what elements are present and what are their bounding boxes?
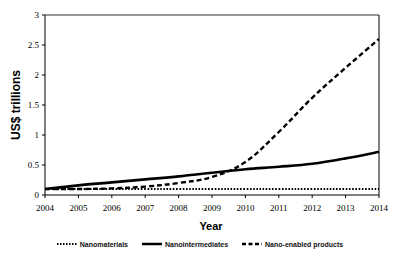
x-tick-label: 2012: [303, 203, 321, 213]
series-nano-enabled-products-line: [45, 39, 379, 189]
axes: 00.511.522.53200420052006200720082009201…: [28, 10, 389, 213]
x-tick-label: 2008: [170, 203, 189, 213]
legend-item-nanointermediates: Nanointermediates: [142, 241, 228, 248]
x-tick-label: 2011: [270, 203, 288, 213]
x-tick-label: 2005: [69, 203, 88, 213]
y-tick-label: 2.5: [28, 40, 40, 50]
y-tick-label: 0.5: [28, 160, 40, 170]
x-tick-label: 2010: [236, 203, 255, 213]
x-tick-label: 2009: [203, 203, 222, 213]
y-tick-label: 1.5: [28, 100, 40, 110]
dotted-line-icon: [57, 241, 77, 247]
y-tick-label: 0: [35, 190, 40, 200]
x-tick-label: 2007: [136, 203, 155, 213]
y-tick-label: 1: [35, 130, 40, 140]
y-tick-label: 2: [35, 70, 40, 80]
y-tick-label: 3: [35, 10, 40, 20]
legend-item-nano-enabled-products: Nano-enabled products: [242, 241, 343, 248]
legend-label: Nanomaterials: [80, 241, 128, 248]
legend: Nanomaterials Nanointermediates Nano-ena…: [0, 236, 400, 252]
legend-label: Nanointermediates: [165, 241, 228, 248]
legend-item-nanomaterials: Nanomaterials: [57, 241, 128, 248]
y-axis-title: US$ trillions: [9, 70, 23, 140]
legend-label: Nano-enabled products: [265, 241, 343, 248]
series-lines: [45, 39, 379, 189]
dashed-line-icon: [242, 241, 262, 247]
x-tick-label: 2006: [103, 203, 122, 213]
x-axis-title: Year: [199, 220, 223, 232]
x-tick-label: 2004: [36, 203, 55, 213]
x-tick-label: 2013: [337, 203, 356, 213]
x-tick-label: 2014: [370, 203, 389, 213]
line-chart: 00.511.522.53200420052006200720082009201…: [0, 0, 400, 260]
solid-line-icon: [142, 241, 162, 247]
series-nanointermediates-line: [45, 152, 379, 189]
